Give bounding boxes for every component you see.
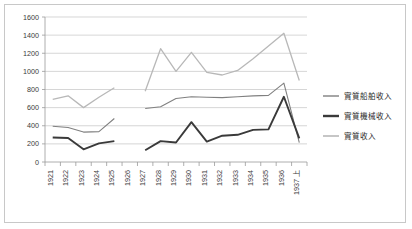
x-axis-category-label: 1937 上 [292, 170, 301, 195]
x-axis-category-label: 1932 [215, 170, 224, 186]
x-axis-tick-marks [45, 162, 307, 166]
legend-label: 實質船舶收入 [344, 91, 392, 101]
y-axis-tick-label: 800 [27, 85, 39, 94]
y-axis-tick-labels: 02004006008001000120014001600 [23, 13, 39, 167]
series-line-2 [145, 33, 299, 91]
legend-item[interactable]: 實質機械收入 [323, 111, 392, 121]
x-axis-category-label: 1927 [138, 170, 147, 186]
legend-label: 實質機械收入 [344, 111, 392, 121]
x-axis-category-label: 1935 [261, 170, 270, 186]
legend-item[interactable]: 實質收入 [323, 131, 376, 141]
y-axis-tick-label: 1400 [23, 31, 39, 40]
series-line-0 [53, 119, 115, 133]
x-axis-category-label: 1930 [184, 170, 193, 186]
x-axis-category-label: 1926 [123, 170, 132, 186]
legend-label: 實質收入 [344, 131, 376, 141]
x-axis-category-label: 1928 [154, 170, 163, 186]
legend-item[interactable]: 實質船舶收入 [323, 91, 392, 101]
x-axis-category-label: 1922 [61, 170, 70, 186]
data-series [53, 33, 300, 150]
x-axis-category-label: 1924 [92, 170, 101, 186]
y-axis-tick-label: 200 [27, 139, 39, 148]
x-axis-category-labels: 1921192219231924192519261927192819291930… [46, 170, 302, 195]
x-axis-category-label: 1921 [46, 170, 55, 186]
y-axis-tick-label: 0 [35, 158, 39, 167]
x-axis-category-label: 1931 [200, 170, 209, 186]
x-axis-category-label: 1936 [277, 170, 286, 186]
series-line-1 [145, 97, 299, 150]
series-line-1 [53, 138, 115, 150]
line-chart: 02004006008001000120014001600 1921192219… [5, 5, 405, 222]
chart-frame: 02004006008001000120014001600 1921192219… [4, 4, 406, 223]
x-axis-category-label: 1925 [107, 170, 116, 186]
x-axis-category-label: 1923 [77, 170, 86, 186]
chart-legend: 實質船舶收入實質機械收入實質收入 [323, 91, 392, 141]
y-axis-tick-label: 1600 [23, 13, 39, 22]
y-axis-tick-label: 600 [27, 103, 39, 112]
y-axis-tick-label: 400 [27, 121, 39, 130]
x-axis-category-label: 1934 [246, 170, 255, 186]
x-axis-category-label: 1929 [169, 170, 178, 186]
series-line-2 [53, 88, 115, 108]
y-axis-tick-label: 1000 [23, 67, 39, 76]
y-axis-tick-label: 1200 [23, 49, 39, 58]
gridlines [42, 17, 307, 162]
x-axis-category-label: 1933 [231, 170, 240, 186]
